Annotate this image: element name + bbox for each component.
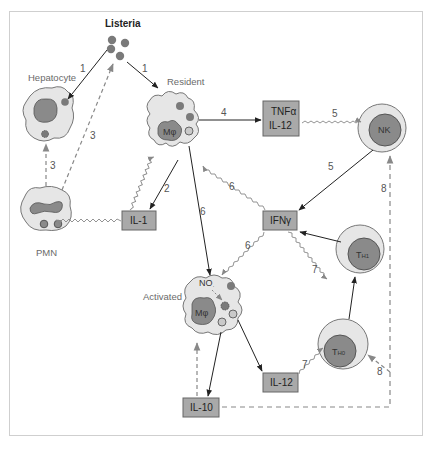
phagosome: [218, 318, 226, 326]
tnfa-il12-box: TNFα IL-12: [263, 101, 299, 136]
wavy-ifng-to-activated: [222, 232, 264, 275]
degraded-bacterium: [221, 302, 229, 310]
th0-cell: TH0: [318, 319, 368, 369]
pmn-label: PMN: [36, 247, 57, 258]
bacterium: [227, 282, 235, 290]
phagosome: [185, 127, 193, 135]
wavy-il1-to-resident: [129, 156, 154, 211]
bacterium: [186, 113, 194, 121]
step-label: 6: [200, 206, 206, 217]
resident-label: Resident: [167, 76, 205, 87]
resident-macrophage: Mφ: [147, 91, 199, 146]
step-label: 6: [245, 240, 251, 251]
arrow-th1-to-ifng: [300, 232, 341, 242]
macrophage-label: Mφ: [195, 308, 208, 318]
nk-cell: NK: [358, 104, 406, 152]
step-label: 7: [312, 264, 318, 275]
pmn-cell: [21, 186, 72, 230]
hepatocyte-nucleus: [34, 99, 57, 122]
step-label: 1: [80, 63, 86, 74]
step-label: 3: [50, 160, 56, 171]
degraded-bacterium: [42, 131, 49, 138]
tnfa-label: TNFα: [271, 106, 296, 117]
arrow-th0-to-th1: [349, 277, 355, 319]
no-label: NO·: [199, 278, 215, 289]
step-label: 4: [221, 107, 227, 118]
bacterium: [116, 52, 124, 60]
il12-label: IL-12: [269, 120, 292, 131]
il1-box: IL-1: [122, 211, 156, 230]
bacterium: [108, 36, 116, 44]
step-label: 6: [229, 181, 235, 192]
step-label: 8: [377, 366, 383, 377]
immune-response-diagram: Listeria Hepatocyte Resident Mφ TNFα IL-…: [0, 0, 434, 449]
bacterium: [107, 45, 115, 53]
step-label: 1: [142, 63, 148, 74]
arrow-activated-to-il10: [208, 332, 221, 396]
il1-label: IL-1: [130, 215, 148, 226]
phagosome: [229, 310, 237, 318]
step-label: 8: [381, 183, 387, 194]
arrow-activated-to-il12: [238, 320, 262, 371]
wavy-ifng-to-th0: [288, 232, 327, 279]
bacterium: [176, 102, 184, 110]
hepatocyte-cell: [23, 87, 74, 141]
arrow-nk-to-ifng: [299, 150, 373, 210]
th1-cell: TH1: [336, 225, 384, 273]
bacterium: [61, 98, 69, 106]
step-label: 5: [332, 108, 338, 119]
step-label: 5: [328, 161, 334, 172]
wavy-tnfa-to-nk: [302, 121, 361, 123]
activated-label: Activated: [143, 291, 182, 302]
listeria-title: Listeria: [105, 18, 141, 29]
step-label: 7: [302, 359, 308, 370]
nk-label: NK: [378, 125, 391, 135]
hepatocyte-label: Hepatocyte: [28, 72, 76, 83]
ifng-label: IFNγ: [270, 215, 291, 226]
il12-box: IL-12: [263, 373, 298, 392]
step-label: 2: [164, 183, 170, 194]
bacterium: [121, 39, 129, 47]
macrophage-label: Mφ: [163, 127, 176, 137]
granule: [40, 220, 48, 228]
il12-bottom-label: IL-12: [270, 377, 293, 388]
step-label: 3: [90, 130, 96, 141]
il10-label: IL-10: [190, 402, 213, 413]
ifng-box: IFNγ: [263, 211, 297, 230]
il10-box: IL-10: [183, 398, 219, 417]
listeria-bacteria: [107, 36, 129, 60]
activated-macrophage: Mφ NO·: [183, 275, 242, 335]
